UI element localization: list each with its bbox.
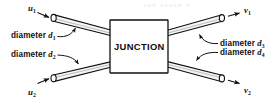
outlet-label-v2: v2 [244,86,251,95]
inlet-arrow-u2 [38,79,50,84]
callout-leader-d1 [58,28,76,37]
diameter-label-d4-subscript: 4 [262,52,265,58]
callout-leader-d4 [197,52,219,60]
outlet-label-v1-subscript: 1 [248,10,251,16]
pipe-top-right [167,15,225,36]
outlet-label-v1: v1 [244,6,251,15]
pipe-top-left [51,14,113,36]
outlet-arrow-v1 [228,13,240,16]
junction-label: JUNCTION [114,42,164,51]
diameter-label-d1: diameter d1 [11,31,56,40]
diameter-label-d1-subscript: 1 [53,35,56,41]
outlet-arrow-v2 [228,80,240,83]
diameter-label-d2-subscript: 2 [53,54,56,60]
pipe-bottom-left [51,61,113,81]
callout-leader-d2 [58,55,79,64]
inlet-label-u1: u1 [28,4,36,13]
inlet-label-u2-subscript: 2 [33,92,36,98]
inlet-label-u1-subscript: 1 [33,8,36,14]
inlet-arrow-u1 [38,13,50,18]
outlet-label-v2-subscript: 2 [248,90,251,96]
diameter-label-d2: diameter d2 [11,50,56,59]
diameter-label-d4-prefix: diameter [220,48,255,57]
diameter-label-d2-prefix: diameter [11,50,46,59]
pipe-junction-diagram: ••• ••••• • [0,0,277,103]
callout-leader-d3 [200,35,219,44]
diameter-label-d3-prefix: diameter [220,39,255,48]
pipe-bottom-right [167,61,225,82]
diameter-label-d4: diameter d4 [220,48,265,57]
diameter-label-d1-prefix: diameter [11,31,46,40]
inlet-label-u2: u2 [28,88,36,97]
